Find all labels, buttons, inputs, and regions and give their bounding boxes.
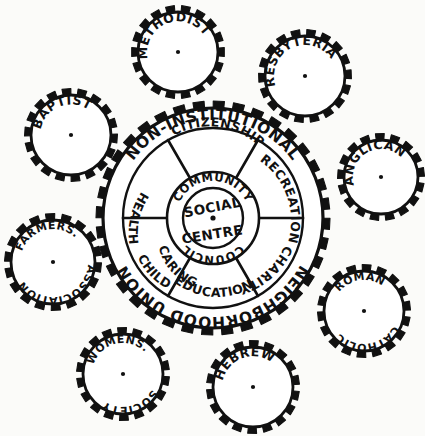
satellite-gear-womens-society-center-dot [121, 372, 125, 376]
hub-center-dot [210, 215, 215, 220]
satellite-gear-farmers-association-center-dot [51, 260, 55, 264]
satellite-gear-hebrew-center-dot [251, 385, 255, 389]
satellite-gear-methodist-center-dot [176, 50, 180, 54]
satellite-gear-methodist[interactable]: METHODIST [132, 6, 225, 99]
satellite-gear-presbyterian-center-dot [303, 74, 307, 78]
satellite-gear-farmers-association[interactable]: FARMERS.ASSOCIATION [5, 214, 102, 311]
satellite-gear-anglican[interactable]: ANGLICAN [338, 134, 425, 221]
main-gear[interactable]: NON-INSTITUTIONAL NEIGHBORHOOD UNION CIT… [96, 101, 330, 335]
satellite-gear-roman-catholic-center-dot [362, 309, 366, 313]
satellite-gear-womens-society[interactable]: WOMENS.SOCIETY [77, 328, 170, 421]
satellite-gear-baptist[interactable]: BAPTIST [25, 89, 118, 182]
neighborhood-union-diagram: METHODISTPRESBYTERIANANGLICANROMANCATHOL… [0, 0, 425, 436]
satellite-gear-baptist-center-dot [69, 133, 73, 137]
satellite-gear-hebrew[interactable]: HEBREW [207, 341, 300, 434]
satellite-gear-anglican-center-dot [379, 175, 383, 179]
satellite-gear-roman-catholic[interactable]: ROMANCATHOLIC [318, 265, 411, 358]
gear-diagram-canvas: METHODISTPRESBYTERIANANGLICANROMANCATHOL… [0, 0, 425, 436]
social-centre-hub[interactable]: COMMUNITY COUNCIL SOCIAL CENTRE [167, 170, 259, 268]
